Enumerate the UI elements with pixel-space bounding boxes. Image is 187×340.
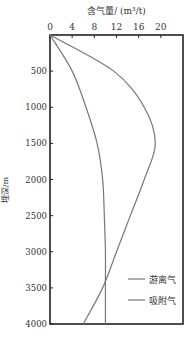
y-tick-label: 4000	[25, 319, 47, 329]
x-tick-label: 4	[69, 22, 75, 32]
x-axis-label: 含气量/ (m³/t)	[87, 5, 146, 16]
depth-gas-content-chart: 含气量/ (m³/t)04812162050010001500200025003…	[0, 0, 187, 340]
x-tick-label: 8	[91, 22, 97, 32]
x-tick-label: 0	[47, 22, 53, 32]
series-line-free-gas	[50, 35, 105, 324]
x-tick-label: 12	[111, 22, 122, 32]
legend-label: 吸附气	[149, 295, 176, 306]
legend-label: 游离气	[149, 274, 176, 285]
y-tick-label: 500	[31, 66, 47, 76]
y-tick-label: 2000	[25, 175, 47, 185]
y-tick-label: 1000	[25, 102, 47, 112]
x-tick-label: 20	[155, 22, 167, 32]
y-tick-label: 2500	[25, 211, 47, 221]
y-tick-label: 3500	[25, 283, 47, 293]
y-axis-label: 埋深/m	[0, 176, 10, 203]
y-tick-label: 1500	[25, 138, 47, 148]
x-tick-label: 16	[133, 22, 145, 32]
y-tick-label: 3000	[25, 247, 47, 257]
